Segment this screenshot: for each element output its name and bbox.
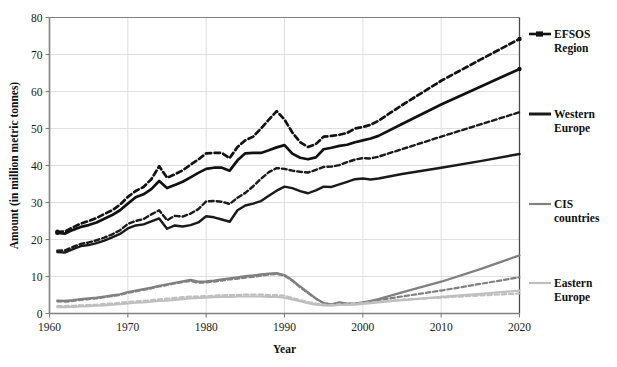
legend-label-line1: CIS <box>554 198 573 210</box>
chart-figure: 80706050403020100 1960197019801990200020… <box>0 0 617 367</box>
legend-label-line2: Europe <box>554 122 590 135</box>
y-tick-label: 40 <box>31 160 43 172</box>
y-tick-label: 30 <box>31 197 43 209</box>
x-tick-label: 1980 <box>195 321 218 333</box>
y-tick-label: 80 <box>31 12 43 24</box>
legend-marker-icon <box>536 31 543 36</box>
legend-label-line2: countries <box>554 212 600 224</box>
y-tick-label: 50 <box>31 123 43 135</box>
figure-background <box>0 0 617 367</box>
legend-label-line1: Eastern <box>554 277 593 289</box>
y-axis-title: Amount (in million metric tonnes) <box>8 82 21 250</box>
x-tick-label: 1960 <box>38 321 61 333</box>
chart-svg: 80706050403020100 1960197019801990200020… <box>0 0 617 367</box>
x-tick-label: 1990 <box>273 321 296 333</box>
x-tick-label: 2020 <box>508 321 531 333</box>
y-tick-label: 10 <box>31 271 43 283</box>
y-tick-labels: 80706050403020100 <box>31 12 43 320</box>
series-endpoint-marker <box>517 37 521 41</box>
legend-label-line1: EFSOS <box>554 28 590 40</box>
series-endpoint-marker <box>517 67 521 71</box>
series-startpoint-marker <box>55 230 59 234</box>
x-tick-label: 1970 <box>116 321 139 333</box>
y-tick-label: 70 <box>31 49 43 61</box>
legend-label-line2: Europe <box>554 291 590 304</box>
y-tick-label: 20 <box>31 234 43 246</box>
y-tick-label: 0 <box>37 308 43 320</box>
y-tick-label: 60 <box>31 86 43 98</box>
x-axis-title: Year <box>273 343 296 355</box>
legend-label-line1: Western <box>554 108 595 120</box>
legend-label-line2: Region <box>554 42 589 55</box>
x-tick-label: 2010 <box>430 321 453 333</box>
x-tick-label: 2000 <box>351 321 374 333</box>
